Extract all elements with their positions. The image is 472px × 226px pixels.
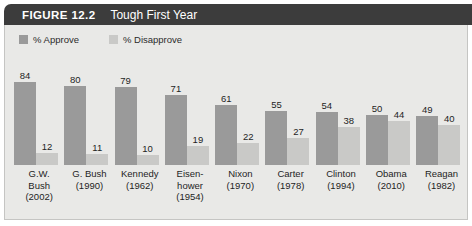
figure-number-label: FIGURE 12.2 [22,9,95,21]
bar-value-label: 84 [14,70,36,81]
bar-group: 7910Kennedy(1962) [115,55,165,218]
bar-approve[interactable]: 79 [115,87,137,165]
category-label-line: G. Bush [64,168,114,180]
bar-value-label: 79 [115,75,137,86]
bar-rect [187,146,209,165]
bar-group: 5438Clinton(1994) [316,55,366,218]
bar-rect [366,115,388,165]
bar-rect [86,154,108,165]
legend-swatch-disapprove [109,35,118,44]
bar-rect [165,95,187,165]
bar-value-label: 12 [36,141,58,152]
bar-group: 8412G.W.Bush(2002) [14,55,64,218]
category-label-line: Clinton [316,168,366,180]
bar-pair: 8011 [64,55,114,165]
bar-value-label: 10 [137,143,159,154]
bar-value-label: 50 [366,103,388,114]
bar-pair: 7119 [165,55,215,165]
bar-group: 5044Obama(2010) [366,55,416,218]
bar-disapprove[interactable]: 19 [187,146,209,165]
category-label-line: Carter [265,168,315,180]
category-label: Obama(2010) [366,168,416,218]
chart-legend: % Approve% Disapprove [19,34,212,45]
bar-rect [438,125,460,165]
bar-disapprove[interactable]: 40 [438,125,460,165]
legend-label: % Disapprove [123,34,182,45]
bar-value-label: 27 [287,126,309,137]
chart-panel: % Approve% Disapprove 8412G.W.Bush(2002)… [4,25,468,220]
bar-approve[interactable]: 55 [265,111,287,165]
bar-pair: 5527 [265,55,315,165]
bar-disapprove[interactable]: 12 [36,153,58,165]
bar-disapprove[interactable]: 44 [388,121,410,165]
bar-group-list: 8412G.W.Bush(2002)8011G. Bush(1990)7910K… [14,55,467,218]
bar-value-label: 44 [388,109,410,120]
bar-approve[interactable]: 84 [14,82,36,165]
bar-value-label: 22 [237,131,259,142]
bar-rect [287,138,309,165]
bar-pair: 4940 [416,55,466,165]
bar-disapprove[interactable]: 10 [137,155,159,165]
figure-title-bar: FIGURE 12.2 Tough First Year [4,4,472,25]
figure-container: FIGURE 12.2 Tough First Year % Approve% … [0,0,472,226]
bar-value-label: 55 [265,99,287,110]
chart-plot-area: 8412G.W.Bush(2002)8011G. Bush(1990)7910K… [5,55,467,218]
legend-swatch-approve [19,35,28,44]
bar-pair: 6122 [215,55,265,165]
category-label-line: Eisen- [165,168,215,180]
bar-value-label: 11 [86,142,108,153]
category-label-line: (1982) [416,180,466,192]
bar-approve[interactable]: 80 [64,86,86,165]
bar-rect [115,87,137,165]
category-label-line: (2002) [14,191,64,203]
bar-rect [137,155,159,165]
bar-approve[interactable]: 61 [215,105,237,165]
bar-rect [265,111,287,165]
category-label: Nixon(1970) [215,168,265,218]
bar-value-label: 40 [438,113,460,124]
bar-rect [416,116,438,165]
bar-value-label: 61 [215,93,237,104]
category-label-line: G.W. [14,168,64,180]
bar-approve[interactable]: 50 [366,115,388,165]
bar-pair: 5438 [316,55,366,165]
bar-approve[interactable]: 54 [316,112,338,165]
bar-rect [237,143,259,165]
category-label-line: (1990) [64,180,114,192]
bar-rect [388,121,410,165]
category-label: Eisen-hower(1954) [165,168,215,218]
bar-pair: 5044 [366,55,416,165]
figure-title: Tough First Year [110,8,197,22]
category-label: Reagan(1982) [416,168,466,218]
legend-item: % Disapprove [109,34,182,45]
category-label-line: (1962) [115,180,165,192]
category-label-line: (1970) [215,180,265,192]
bar-disapprove[interactable]: 27 [287,138,309,165]
category-label-line: Kennedy [115,168,165,180]
bar-disapprove[interactable]: 38 [338,127,360,165]
bar-approve[interactable]: 71 [165,95,187,165]
category-label: Clinton(1994) [316,168,366,218]
bar-rect [64,86,86,165]
bar-group: 4940Reagan(1982) [416,55,466,218]
bar-pair: 8412 [14,55,64,165]
bar-approve[interactable]: 49 [416,116,438,165]
category-label: G. Bush(1990) [64,168,114,218]
bar-rect [215,105,237,165]
category-label: G.W.Bush(2002) [14,168,64,218]
bar-value-label: 71 [165,83,187,94]
bar-value-label: 49 [416,104,438,115]
bar-disapprove[interactable]: 22 [237,143,259,165]
bar-group: 7119Eisen-hower(1954) [165,55,215,218]
category-label: Carter(1978) [265,168,315,218]
bar-value-label: 19 [187,134,209,145]
legend-label: % Approve [33,34,79,45]
bar-group: 6122Nixon(1970) [215,55,265,218]
bar-value-label: 80 [64,74,86,85]
category-label-line: (1978) [265,180,315,192]
category-label-line: Bush [14,180,64,192]
bar-pair: 7910 [115,55,165,165]
bar-disapprove[interactable]: 11 [86,154,108,165]
category-label-line: (1954) [165,191,215,203]
category-label-line: (1994) [316,180,366,192]
